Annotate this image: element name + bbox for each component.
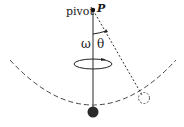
pivot-label: pivot [66,5,94,18]
bob [88,107,99,118]
point-label: P [96,2,106,15]
theta-label: θ [97,37,104,51]
pendulum-diagram: pivot P ω θ [0,0,184,127]
displaced-string [93,10,142,95]
omega-label: ω [81,37,91,51]
theta-arc [93,31,106,34]
displaced-bob [139,93,150,104]
